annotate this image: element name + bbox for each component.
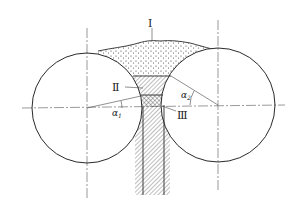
alpha-1-label: α1 (112, 108, 122, 119)
zone-1-powder-feed (98, 41, 212, 76)
alpha-1-ray (87, 96, 141, 108)
zone-1-label: Ⅰ (148, 17, 152, 30)
zone-2-label: Ⅱ (112, 81, 119, 94)
alpha-2-label: α2 (181, 90, 191, 101)
zone-3-region (135, 95, 170, 107)
alpha-2-ray (171, 76, 218, 105)
zone-3-label: Ⅲ (177, 109, 188, 122)
roll-compaction-diagram: Ⅰ Ⅱ Ⅲ α1 α2 (0, 0, 302, 211)
